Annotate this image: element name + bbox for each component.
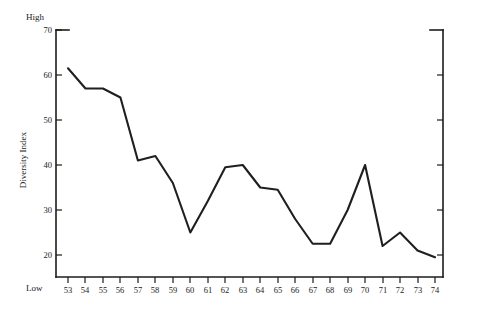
x-tick-label-58: 58	[151, 285, 160, 295]
x-tick-label-70: 70	[361, 285, 370, 295]
diversity-index-series	[68, 68, 435, 257]
right-axis-ticks	[437, 75, 443, 255]
x-tick-label-55: 55	[99, 285, 108, 295]
y-axis-high-label: High	[26, 12, 45, 22]
y-tick-label-20: 20	[44, 250, 53, 260]
y-tick-label-40: 40	[44, 160, 53, 170]
x-tick-label-60: 60	[186, 285, 195, 295]
x-tick-label-65: 65	[274, 285, 283, 295]
x-tick-label-73: 73	[414, 285, 423, 295]
diversity-index-line-chart: 70 60 50 40 30 20 High Low Diversity Ind…	[0, 0, 480, 310]
x-tick-label-74: 74	[431, 285, 440, 295]
x-tick-label-66: 66	[291, 285, 300, 295]
x-tick-label-54: 54	[81, 285, 90, 295]
x-tick-label-69: 69	[344, 285, 353, 295]
x-tick-label-53: 53	[64, 285, 73, 295]
y-axis-title: Diversity Index	[18, 131, 28, 188]
x-axis-ticks	[68, 277, 435, 283]
x-tick-label-72: 72	[396, 285, 405, 295]
x-tick-label-56: 56	[116, 285, 125, 295]
x-tick-label-67: 67	[309, 285, 318, 295]
y-tick-label-70: 70	[44, 25, 53, 35]
y-tick-label-50: 50	[44, 115, 53, 125]
x-tick-label-68: 68	[326, 285, 335, 295]
y-axis-low-label: Low	[26, 283, 43, 293]
x-tick-label-57: 57	[134, 285, 143, 295]
y-tick-label-60: 60	[44, 70, 53, 80]
x-tick-label-63: 63	[239, 285, 248, 295]
x-tick-label-59: 59	[169, 285, 178, 295]
x-tick-label-61: 61	[204, 285, 213, 295]
chart-page: 70 60 50 40 30 20 High Low Diversity Ind…	[0, 0, 480, 310]
y-tick-label-30: 30	[44, 205, 53, 215]
x-tick-label-62: 62	[221, 285, 230, 295]
y-axis-ticks	[56, 30, 62, 255]
x-tick-label-71: 71	[379, 285, 388, 295]
x-tick-label-64: 64	[256, 285, 265, 295]
